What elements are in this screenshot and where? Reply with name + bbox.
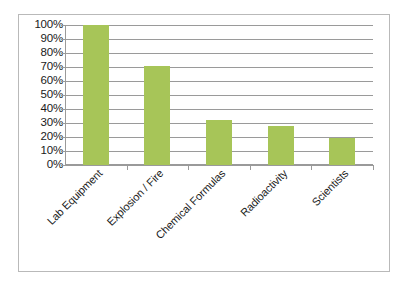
y-axis-tick-label: 20%	[19, 131, 63, 143]
y-axis-tick-labels: 0%10%20%30%40%50%60%70%80%90%100%	[19, 25, 63, 165]
bar[interactable]	[268, 126, 294, 165]
y-axis-tick-label: 50%	[19, 89, 63, 101]
y-axis-tick-label: 90%	[19, 33, 63, 45]
y-axis-tick-label: 0%	[19, 159, 63, 171]
y-axis-tick-mark	[61, 81, 65, 82]
bar[interactable]	[83, 25, 109, 165]
bar-series	[65, 25, 373, 165]
y-axis-tick-mark	[61, 137, 65, 138]
y-axis-tick-mark	[61, 39, 65, 40]
bar-slot	[65, 25, 127, 165]
y-axis-tick-label: 10%	[19, 145, 63, 157]
x-axis-category-labels: Lab EquipmentExplosion / FireChemical Fo…	[65, 167, 373, 267]
chart-figure: 0%10%20%30%40%50%60%70%80%90%100% Lab Eq…	[18, 14, 390, 272]
y-axis-tick-mark	[61, 53, 65, 54]
bar-slot	[250, 25, 312, 165]
chart-plot-area	[65, 25, 373, 165]
y-axis-tick-label: 30%	[19, 117, 63, 129]
gridline	[65, 165, 373, 166]
y-axis-tick-label: 60%	[19, 75, 63, 87]
y-axis-tick-mark	[61, 165, 65, 166]
bar[interactable]	[144, 66, 170, 165]
y-axis-tick-mark	[61, 67, 65, 68]
y-axis-tick-mark	[61, 109, 65, 110]
bar-slot	[127, 25, 189, 165]
chart-plot-wrapper: 0%10%20%30%40%50%60%70%80%90%100% Lab Eq…	[19, 15, 389, 271]
x-axis-category-label: Lab Equipment	[0, 167, 104, 288]
y-axis-tick-label: 80%	[19, 47, 63, 59]
bar-slot	[311, 25, 373, 165]
y-axis-tick-mark	[61, 95, 65, 96]
y-axis-tick-label: 70%	[19, 61, 63, 73]
y-axis-tick-mark	[61, 25, 65, 26]
bar[interactable]	[206, 120, 232, 165]
x-axis-tick-mark	[373, 165, 374, 170]
bar[interactable]	[329, 138, 355, 165]
y-axis-tick-mark	[61, 123, 65, 124]
y-axis-tick-mark	[61, 151, 65, 152]
y-axis-tick-label: 40%	[19, 103, 63, 115]
bar-slot	[188, 25, 250, 165]
y-axis-tick-label: 100%	[19, 19, 63, 31]
